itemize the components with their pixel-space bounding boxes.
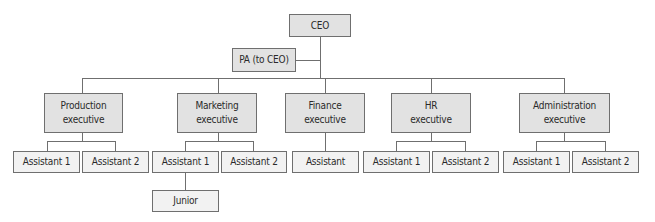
- marketing-assistant-2-node: Assistant 2: [221, 151, 287, 173]
- exec-title: HR: [425, 100, 438, 111]
- marketing-executive-node: Marketingexecutive: [177, 93, 257, 133]
- connector-administration-a1: [536, 141, 537, 151]
- connector-marketing-down: [218, 132, 219, 141]
- administration-executive-node: Administrationexecutive: [519, 93, 610, 133]
- exec-role: executive: [63, 114, 105, 125]
- assistant-label: Assistant 1: [23, 155, 70, 169]
- exec-role: executive: [410, 114, 452, 125]
- exec-title: Finance: [309, 100, 342, 111]
- connector-marketing-a2: [253, 141, 254, 151]
- exec-title: Administration: [533, 100, 596, 111]
- exec-role: executive: [196, 114, 238, 125]
- pa-node: PA (to CEO): [232, 48, 296, 72]
- connector-ceo-down: [320, 36, 321, 78]
- marketing-junior-node: Junior: [152, 190, 219, 212]
- production-assistant-1-node: Assistant 1: [13, 151, 80, 173]
- connector-hr-bus: [396, 141, 465, 142]
- connector-marketing-a1: [185, 141, 186, 151]
- connector-production: [82, 78, 83, 93]
- exec-title: Marketing: [195, 100, 238, 111]
- administration-assistant-2-node: Assistant 2: [572, 151, 639, 173]
- org-chart: CEO PA (to CEO) Productionexecutive Mark…: [0, 0, 655, 222]
- exec-role: executive: [544, 114, 586, 125]
- hr-executive-node: HRexecutive: [391, 93, 471, 133]
- connector-finance: [325, 78, 326, 93]
- assistant-label: Assistant 2: [92, 155, 139, 169]
- hr-assistant-2-node: Assistant 2: [432, 151, 499, 173]
- connector-pa: [295, 60, 320, 61]
- exec-role: executive: [304, 114, 346, 125]
- ceo-node: CEO: [289, 14, 351, 37]
- connector-hr: [431, 78, 432, 93]
- production-assistant-2-node: Assistant 2: [82, 151, 149, 173]
- assistant-label: Assistant 2: [582, 155, 629, 169]
- assistant-label: Assistant 1: [162, 155, 209, 169]
- connector-production-a2: [115, 141, 116, 151]
- connector-exec-bus: [82, 78, 565, 79]
- connector-administration-bus: [536, 141, 605, 142]
- connector-administration-a2: [605, 141, 606, 151]
- assistant-label: Assistant: [306, 155, 345, 169]
- assistant-label: Assistant 1: [373, 155, 420, 169]
- connector-hr-a2: [465, 141, 466, 151]
- connector-junior: [185, 172, 186, 190]
- connector-production-down: [82, 132, 83, 141]
- connector-administration: [564, 78, 565, 93]
- production-executive-node: Productionexecutive: [44, 93, 123, 133]
- assistant-label: Assistant 2: [442, 155, 489, 169]
- connector-marketing-bus: [185, 141, 253, 142]
- connector-hr-down: [431, 132, 432, 141]
- connector-production-a1: [47, 141, 48, 151]
- connector-hr-a1: [396, 141, 397, 151]
- connector-marketing: [218, 78, 219, 93]
- assistant-label: Assistant 2: [230, 155, 277, 169]
- finance-executive-node: Financeexecutive: [285, 93, 365, 133]
- finance-assistant-node: Assistant: [292, 151, 359, 173]
- exec-title: Production: [61, 100, 107, 111]
- junior-label: Junior: [173, 194, 198, 208]
- administration-assistant-1-node: Assistant 1: [503, 151, 570, 173]
- connector-administration-down: [564, 132, 565, 141]
- connector-finance-down: [325, 132, 326, 151]
- marketing-assistant-1-node: Assistant 1: [152, 151, 219, 173]
- ceo-label: CEO: [311, 19, 329, 33]
- pa-label: PA (to CEO): [239, 53, 289, 67]
- connector-production-bus: [47, 141, 115, 142]
- assistant-label: Assistant 1: [513, 155, 560, 169]
- hr-assistant-1-node: Assistant 1: [363, 151, 430, 173]
